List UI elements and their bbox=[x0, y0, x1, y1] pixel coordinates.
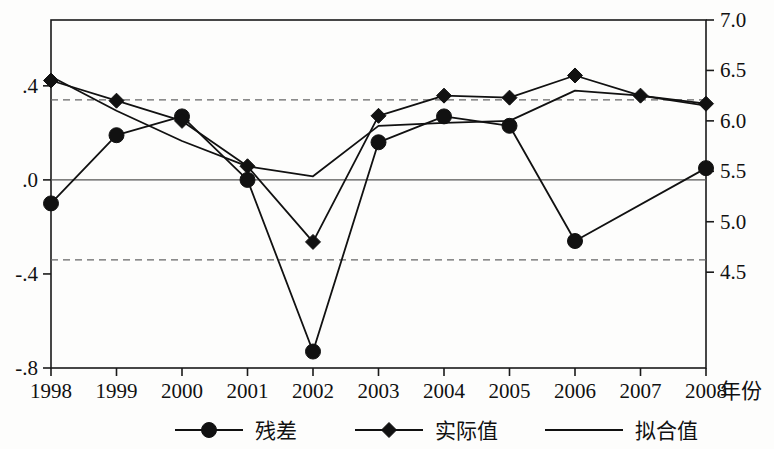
right-axis-tick-label: 5.0 bbox=[720, 210, 746, 234]
legend-marker-actual bbox=[382, 423, 397, 438]
right-axis-tick-label: 6.0 bbox=[720, 109, 746, 133]
data-point-residual bbox=[568, 234, 583, 249]
legend-item-fitted[interactable]: 拟合值 bbox=[545, 419, 698, 443]
x-axis-tick-label: 1998 bbox=[30, 379, 72, 403]
chart-container: .4.0-.4-.87.06.56.05.55.04.5199819992000… bbox=[0, 0, 774, 449]
legend-marker-residual bbox=[202, 423, 217, 438]
legend-label-residual: 残差 bbox=[255, 419, 297, 443]
legend-label-fitted: 拟合值 bbox=[635, 419, 698, 443]
x-axis-tick-label: 2006 bbox=[554, 379, 596, 403]
legend-label-actual: 实际值 bbox=[435, 419, 498, 443]
data-point-residual bbox=[699, 161, 714, 176]
x-axis-tick-label: 2007 bbox=[620, 379, 662, 403]
legend-item-residual[interactable]: 残差 bbox=[175, 419, 297, 443]
left-axis-tick-label: -.8 bbox=[15, 356, 38, 380]
data-point-residual bbox=[44, 196, 59, 211]
data-point-residual bbox=[306, 344, 321, 359]
x-axis-tick-label: 2000 bbox=[161, 379, 203, 403]
left-axis-tick-label: .4 bbox=[22, 74, 38, 98]
data-point-residual bbox=[371, 135, 386, 150]
data-point-residual bbox=[240, 172, 255, 187]
legend-item-actual[interactable]: 实际值 bbox=[355, 419, 498, 443]
right-axis-tick-label: 7.0 bbox=[720, 8, 746, 32]
data-point-actual bbox=[502, 90, 517, 105]
right-axis-tick-label: 6.5 bbox=[720, 58, 746, 82]
data-point-actual bbox=[109, 93, 124, 108]
left-axis-tick-label: .0 bbox=[22, 168, 38, 192]
x-axis-tick-label: 2004 bbox=[423, 379, 466, 403]
data-point-actual bbox=[371, 108, 386, 123]
data-point-actual bbox=[568, 68, 583, 83]
data-point-residual bbox=[437, 109, 452, 124]
x-axis-tick-label: 2002 bbox=[292, 379, 334, 403]
data-point-residual bbox=[109, 128, 124, 143]
data-point-actual bbox=[699, 96, 714, 111]
residual-actual-fitted-chart: .4.0-.4-.87.06.56.05.55.04.5199819992000… bbox=[0, 0, 774, 449]
data-point-actual bbox=[437, 88, 452, 103]
series-line-fitted bbox=[51, 77, 706, 177]
x-axis-tick-label: 2003 bbox=[358, 379, 400, 403]
right-axis-tick-label: 5.5 bbox=[720, 159, 746, 183]
x-axis-title: 年份 bbox=[720, 379, 762, 403]
x-axis-tick-label: 1999 bbox=[96, 379, 138, 403]
x-axis-tick-label: 2005 bbox=[489, 379, 531, 403]
plot-frame bbox=[51, 20, 706, 368]
x-axis-tick-label: 2001 bbox=[227, 379, 269, 403]
right-axis-tick-label: 4.5 bbox=[720, 260, 746, 284]
left-axis-tick-label: -.4 bbox=[15, 262, 38, 286]
series-line-residual bbox=[51, 116, 706, 351]
